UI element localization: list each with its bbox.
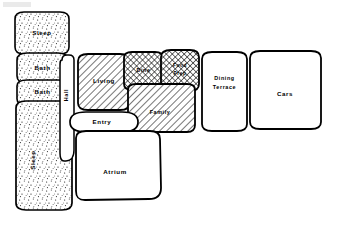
bubble-label-bath-lower: Bath [34,88,50,95]
bubble-hall[interactable]: Hall [60,55,74,161]
bubble-label-sleep-bottom: Sleep [29,150,36,170]
bubble-label-dine: Dine [136,67,150,73]
bubble-label-dining-terrace-line1: Dining [214,75,234,81]
bubble-dining-terrace[interactable]: Dining Terrace [202,52,247,131]
diagram-canvas: Sleep Bath Bath Sleep Hall Living [0,0,337,225]
bubble-entry[interactable]: Entry [70,112,138,132]
bubble-label-hall: Hall [63,89,69,101]
bubble-sleep-top[interactable]: Sleep [15,12,69,54]
bubble-label-living: Living [93,77,115,84]
bubble-label-dining-terrace-line2: Terrace [213,84,236,90]
bubble-label-food-prep-line1: Food [173,63,187,68]
bubble-label-family: Family [150,109,171,115]
bubble-label-atrium: Atrium [103,168,127,175]
bubble-label-cars: Cars [277,90,293,97]
bubble-cars[interactable]: Cars [250,51,321,129]
bubble-label-bath-upper: Bath [34,64,50,71]
bubble-atrium[interactable]: Atrium [76,131,161,200]
bubble-label-sleep-top: Sleep [32,29,52,36]
bubble-living[interactable]: Living [78,54,130,110]
bubble-diagram: Sleep Bath Bath Sleep Hall Living [0,0,337,225]
bubble-label-food-prep-line2: Prep [173,71,186,76]
bubble-label-entry: Entry [93,118,112,125]
